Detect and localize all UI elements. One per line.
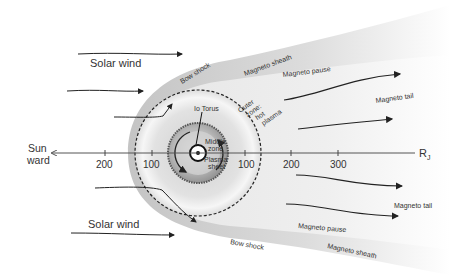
tick-label-300-right: 300 [330, 159, 347, 170]
plasma-sheet-label-line1: Plasma [204, 156, 227, 163]
io-torus-label: Io Torus [194, 105, 219, 112]
tick-label-100-left: 100 [143, 159, 160, 170]
sunward-label-line1: Sun [28, 142, 47, 154]
tick-label-200-left: 200 [96, 159, 113, 170]
solar-wind-label-bottom: Solar wind [88, 218, 139, 230]
solar-wind-label-top: Solar wind [90, 57, 141, 69]
magneto-tail-label-bottom: Magneto tail [394, 202, 433, 210]
tick-label-200-right: 200 [283, 159, 300, 170]
tick-label-100-right: 100 [238, 159, 255, 170]
middle-zone-label-line1: Middle [205, 138, 226, 145]
magnetosphere-diagram: 200 100 100 200 300 Sun ward RJ Solar wi… [0, 0, 450, 278]
plasma-sheet-label-line2: sheet [208, 163, 225, 170]
middle-zone-label-line2: zone [208, 145, 223, 152]
sunward-label-line2: ward [26, 154, 50, 166]
